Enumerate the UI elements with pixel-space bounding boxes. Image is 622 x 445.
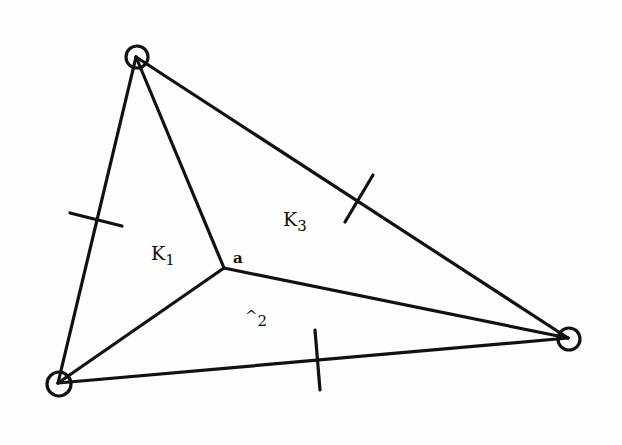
- k3-subscript: 3: [297, 217, 307, 235]
- k1-base: K: [151, 242, 165, 264]
- point-label-a: a: [233, 251, 243, 266]
- k2-base: ^: [245, 307, 258, 325]
- region-label-k1: K1: [151, 244, 175, 268]
- k1-subscript: 1: [165, 251, 175, 269]
- edge-top-right: [136, 57, 568, 338]
- midpoint-tick-top-right-edge: [345, 175, 373, 222]
- k2-subscript: 2: [258, 312, 268, 330]
- triangulation-diagram: [0, 0, 622, 445]
- edge-bottomleft-right: [58, 338, 568, 383]
- region-label-k2: ^2: [245, 305, 267, 329]
- region-label-k3: K3: [283, 210, 307, 234]
- edge-top-a: [136, 57, 224, 268]
- k3-base: K: [283, 208, 297, 230]
